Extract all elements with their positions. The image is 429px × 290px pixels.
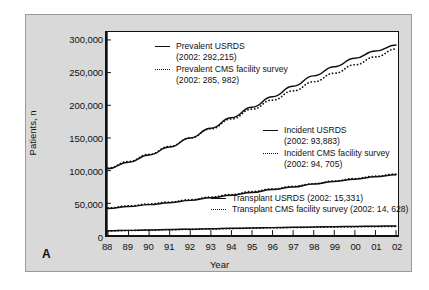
- x-axis-tick-label: 89: [123, 241, 133, 252]
- legend-entry: Transplant CMS facility survey (2002: 14…: [211, 204, 408, 215]
- x-axis-title: Year: [26, 259, 413, 270]
- legend-entry: Transplant USRDS (2002: 15,331): [211, 193, 408, 204]
- x-axis-tick-label: 97: [288, 241, 298, 252]
- x-axis-tick-label: 92: [185, 241, 195, 252]
- x-axis-tick-labels: 888990919293949596979899000102: [26, 241, 413, 255]
- y-axis-tick-label: 100,000: [69, 166, 103, 177]
- legend-entry: Prevalent CMS facility survey: [155, 64, 288, 75]
- solid-line-icon: [263, 125, 280, 136]
- y-axis-tick-label: 250,000: [69, 67, 103, 78]
- plot-area: Prevalent USRDS(2002: 292,215)Prevalent …: [105, 31, 399, 237]
- legend-entry: Incident CMS facility survey: [263, 148, 390, 159]
- x-axis-tick-label: 01: [371, 241, 381, 252]
- y-axis-tick-label: 150,000: [69, 133, 103, 144]
- x-axis-tick-label: 98: [309, 241, 319, 252]
- legend-entry: Incident USRDS: [263, 125, 390, 136]
- legend-sublabel: (2002: 285, 982): [155, 75, 288, 86]
- legend-group-prevalent: Prevalent USRDS(2002: 292,215)Prevalent …: [155, 41, 288, 87]
- x-axis-tick-label: 95: [247, 241, 257, 252]
- legend-label: Transplant USRDS (2002: 15,331): [232, 193, 363, 204]
- x-axis-tick-label: 99: [330, 241, 340, 252]
- y-axis-tick-label: 50,000: [75, 199, 103, 210]
- dotted-line-icon: [263, 148, 280, 159]
- legend-label: Transplant CMS facility survey (2002: 14…: [232, 204, 408, 215]
- x-axis-tick-label: 94: [226, 241, 236, 252]
- legend-group-transplant: Transplant USRDS (2002: 15,331)Transplan…: [211, 193, 408, 216]
- y-axis-tick-label: 200,000: [69, 100, 103, 111]
- x-axis-tick-label: 00: [350, 241, 360, 252]
- x-axis-tick-label: 02: [392, 241, 402, 252]
- legend-sublabel: (2002: 94, 705): [263, 159, 390, 170]
- solid-line-icon: [211, 193, 228, 204]
- y-axis-title: Patients, n: [27, 111, 38, 156]
- legend-sublabel: (2002: 93,883): [263, 136, 390, 147]
- legend-label: Prevalent USRDS: [176, 41, 245, 52]
- y-axis-tick-labels: 050,000100,000150,000200,000250,000300,0…: [26, 15, 103, 271]
- x-axis-tick-label: 90: [143, 241, 153, 252]
- x-axis-tick-label: 91: [164, 241, 174, 252]
- x-axis-tick-label: 96: [268, 241, 278, 252]
- x-axis-tick-label: 93: [205, 241, 215, 252]
- solid-line-icon: [155, 41, 172, 52]
- dotted-line-icon: [155, 64, 172, 75]
- legend-entry: Prevalent USRDS: [155, 41, 288, 52]
- legend-label: Incident CMS facility survey: [284, 148, 390, 159]
- panel-label: A: [42, 247, 51, 261]
- legend-label: Incident USRDS: [284, 125, 347, 136]
- legend-label: Prevalent CMS facility survey: [176, 64, 288, 75]
- figure-panel: 050,000100,000150,000200,000250,000300,0…: [25, 14, 412, 272]
- legend-group-incident: Incident USRDS(2002: 93,883)Incident CMS…: [263, 125, 390, 171]
- legend-sublabel: (2002: 292,215): [155, 52, 288, 63]
- x-axis-tick-label: 88: [102, 241, 112, 252]
- dotted-line-icon: [211, 204, 228, 215]
- y-axis-tick-label: 300,000: [69, 34, 103, 45]
